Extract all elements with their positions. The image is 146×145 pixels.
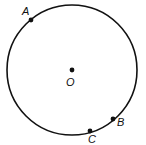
label-o: O	[66, 76, 75, 88]
point-b	[111, 117, 116, 122]
label-a: A	[21, 5, 29, 17]
center-point-o	[70, 68, 75, 73]
circle-diagram: O A B C	[0, 0, 146, 145]
label-b: B	[117, 116, 124, 128]
point-a	[29, 18, 34, 23]
label-c: C	[88, 133, 96, 145]
